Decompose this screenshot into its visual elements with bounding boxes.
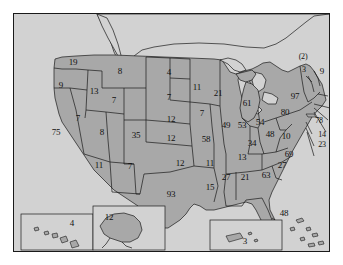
state-value-new-hampshire-lead: 3 [302,65,306,74]
state-value-new-mexico: 7 [128,162,132,171]
state-value-delaware: 23 [318,140,326,149]
state-value-alabama-north: 13 [238,153,247,162]
state-value-ohio: 54 [256,118,265,127]
state-value-texas: 93 [167,190,176,199]
state-value-iowa: 7 [200,109,204,118]
map-frame: .land{fill:#a8a8a8;stroke:#1a1a1a;stroke… [13,13,330,252]
state-value-north-dakota: 4 [167,68,171,77]
state-value-michigan: 61 [243,99,252,108]
state-value-oregon: 9 [59,81,63,90]
state-value-colorado: 35 [132,131,141,140]
us-choropleth-map-figure: .land{fill:#a8a8a8;stroke:#1a1a1a;stroke… [0,0,343,265]
state-value-alaska: 12 [105,213,114,222]
state-value-vermont: (2) [299,52,308,61]
state-value-arkansas: 11 [206,159,214,168]
state-value-pennsylvania: 80 [281,108,290,117]
state-value-nebraska: 12 [167,115,176,124]
state-value-florida: 48 [280,209,289,218]
state-value-puerto-rico: 3 [243,237,247,246]
state-value-idaho: 13 [90,87,99,96]
state-value-north-carolina: 69 [285,150,294,159]
state-value-virginia: 78 [315,116,323,125]
state-value-montana: 8 [118,67,122,76]
state-value-minnesota: 11 [193,83,201,92]
state-value-illinois: 49 [222,121,231,130]
state-value-wyoming: 7 [112,96,116,105]
state-value-maine: 9 [320,67,324,76]
state-value-alabama: 21 [241,173,250,182]
state-value-utah: 8 [100,128,104,137]
state-value-maryland: 14 [318,130,326,139]
state-value-south-carolina: 27 [278,161,287,170]
state-value-california: 75 [52,128,61,137]
state-value-west-virginia: 10 [282,132,291,141]
state-value-tennessee: 34 [248,139,257,148]
state-value-kansas: 12 [167,134,176,143]
state-value-louisiana: 15 [206,183,215,192]
state-value-mississippi: 27 [222,173,231,182]
state-value-wisconsin: 21 [214,89,223,98]
state-value-kentucky: 48 [266,130,275,139]
state-value-hawaii: 4 [70,219,74,228]
state-value-missouri: 58 [202,135,211,144]
state-value-indiana: 53 [238,121,247,130]
state-value-georgia: 63 [262,171,271,180]
state-value-arizona: 11 [95,161,103,170]
state-value-south-dakota: 7 [167,93,171,102]
state-value-nevada: 7 [76,114,80,123]
state-value-washington: 19 [69,58,78,67]
state-value-oklahoma: 12 [176,159,185,168]
state-value-new-york: 97 [291,92,300,101]
